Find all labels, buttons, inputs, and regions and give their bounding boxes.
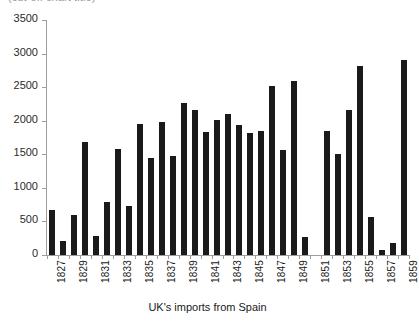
x-axis-tick-mark [299, 255, 300, 259]
bar [302, 237, 308, 255]
bar-slot [288, 20, 299, 255]
bar [71, 215, 77, 255]
bar-slot [201, 20, 212, 255]
x-axis-tick-mark [255, 255, 256, 259]
x-axis-tick-mark [113, 255, 114, 259]
bar-slot [168, 20, 179, 255]
bar-slot [277, 20, 288, 255]
bar-slot [321, 20, 332, 255]
bar [247, 133, 253, 255]
bar-slot [354, 20, 365, 255]
bar [346, 110, 352, 255]
bar [181, 103, 187, 255]
y-axis-tick-label: 1500 [14, 146, 38, 158]
bar-slot [113, 20, 124, 255]
bar-slot [376, 20, 387, 255]
x-axis-tick-mark [244, 255, 245, 259]
bar-slot [387, 20, 398, 255]
x-axis-tick-mark [343, 255, 344, 259]
x-axis-tick-label: 1839 [188, 260, 199, 283]
x-axis-tick-mark [365, 255, 366, 259]
x-axis-tick-label: 1845 [254, 260, 265, 283]
bar-slot [343, 20, 354, 255]
bar [115, 149, 121, 255]
x-axis-tick-mark [387, 255, 388, 259]
x-axis-tick-mark [321, 255, 322, 259]
bar [280, 150, 286, 255]
y-axis-tick-label: 0 [32, 247, 38, 259]
x-axis-title: UK's imports from Spain [0, 301, 415, 313]
x-axis-tick-mark [91, 255, 92, 259]
x-axis-tick-mark [332, 255, 333, 259]
x-axis-tick-label: 1847 [276, 260, 287, 283]
bar [49, 210, 55, 255]
bar-slot [365, 20, 376, 255]
x-axis-tick-mark [124, 255, 125, 259]
bar [269, 86, 275, 255]
bar [148, 158, 154, 255]
bar-slot [299, 20, 310, 255]
x-axis-tick-label: 1853 [342, 260, 353, 283]
clipped-chart-title: (cut-off chart title) [0, 0, 415, 9]
x-axis-tick-label: 1833 [122, 260, 133, 283]
bar [225, 114, 231, 255]
bar [401, 60, 407, 255]
bar [390, 243, 396, 255]
x-axis-tick-mark [135, 255, 136, 259]
bar-slot [124, 20, 135, 255]
bar-slot [157, 20, 168, 255]
bar-slot [69, 20, 80, 255]
x-axis-tick-label: 1841 [210, 260, 221, 283]
x-axis-tick-label: 1837 [166, 260, 177, 283]
bar-slot [146, 20, 157, 255]
bar [159, 122, 165, 255]
bar-slot [190, 20, 201, 255]
x-axis-tick-labels: 1827182918311833183518371839184118431845… [47, 260, 409, 296]
x-axis-tick-mark [179, 255, 180, 259]
bar-slot [135, 20, 146, 255]
x-axis-tick-mark [201, 255, 202, 259]
bar [368, 217, 374, 255]
bar [170, 156, 176, 255]
bar-slot [255, 20, 266, 255]
x-axis-tick-mark [80, 255, 81, 259]
bar-slot [310, 20, 321, 255]
bar-slot [223, 20, 234, 255]
x-axis-tick-mark [190, 255, 191, 259]
y-axis-tick-label: 2000 [14, 113, 38, 125]
bar-slot [233, 20, 244, 255]
x-axis-tick-marks [47, 255, 409, 259]
bar [104, 202, 110, 255]
bar-slot [58, 20, 69, 255]
x-axis-tick-label: 1843 [232, 260, 243, 283]
bar-slot [266, 20, 277, 255]
bar [93, 236, 99, 255]
y-axis-tick-label: 3000 [14, 46, 38, 58]
x-axis-tick-mark [58, 255, 59, 259]
bar-slot [332, 20, 343, 255]
x-axis-tick-mark [223, 255, 224, 259]
x-axis-tick-label: 1849 [298, 260, 309, 283]
bar-slot [102, 20, 113, 255]
x-axis-tick-mark [212, 255, 213, 259]
x-axis-tick-mark [233, 255, 234, 259]
x-axis-tick-mark [47, 255, 48, 259]
bar-slot [244, 20, 255, 255]
bar [203, 132, 209, 255]
bar [137, 124, 143, 255]
bar [357, 66, 363, 255]
x-axis-tick-mark [146, 255, 147, 259]
bar-slot [212, 20, 223, 255]
x-axis-tick-label: 1831 [100, 260, 111, 283]
bar [324, 131, 330, 255]
bar [258, 131, 264, 255]
bar-series [47, 20, 409, 255]
x-axis-tick-label: 1855 [364, 260, 375, 283]
x-axis-tick-mark [266, 255, 267, 259]
x-axis-tick-mark [409, 255, 410, 259]
bar [126, 206, 132, 255]
x-axis-tick-label: 1857 [386, 260, 397, 283]
bar [192, 110, 198, 255]
x-axis-tick-mark [168, 255, 169, 259]
x-axis-tick-mark [310, 255, 311, 259]
